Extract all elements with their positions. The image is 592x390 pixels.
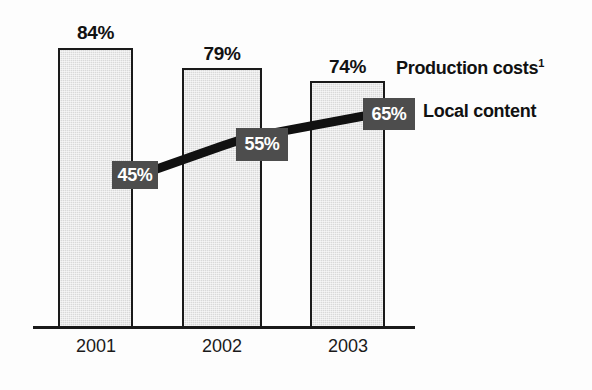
legend-local-content-label: Local content: [423, 101, 536, 121]
legend-production-costs-footnote-marker: 1: [538, 57, 544, 69]
legend-production-costs-label: Production costs: [396, 58, 538, 78]
bar-value-2002: 79%: [182, 43, 262, 65]
point-label-2002: 55%: [236, 128, 288, 161]
bar-2002: [182, 68, 262, 328]
x-tick-2001: 2001: [55, 336, 137, 357]
chart-container: 84% 79% 74% 45% 55% 65% 2001 2002 2003 P…: [0, 0, 592, 390]
x-axis-line: [33, 326, 415, 329]
point-label-2001: 45%: [112, 161, 158, 189]
bar-value-2001: 84%: [58, 22, 133, 44]
x-tick-2003: 2003: [307, 336, 389, 357]
legend-local-content: Local content: [423, 101, 536, 122]
legend-production-costs: Production costs1: [396, 58, 544, 79]
bar-value-2003: 74%: [310, 56, 385, 78]
point-label-2003: 65%: [363, 98, 415, 130]
plot-area: 84% 79% 74% 45% 55% 65% 2001 2002 2003 P…: [0, 0, 592, 390]
x-tick-2002: 2002: [181, 336, 263, 357]
